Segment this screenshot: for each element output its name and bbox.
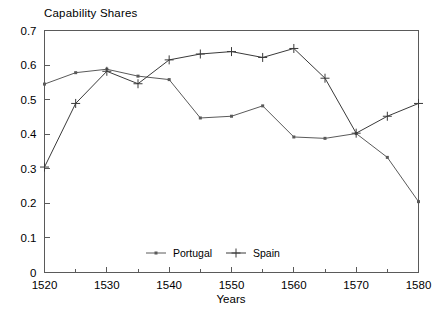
capability-shares-line-chart: 00.10.20.30.40.50.60.7 15201530154015501… — [0, 0, 440, 322]
x-tick-label: 1560 — [281, 279, 307, 291]
series-portugal — [43, 68, 420, 203]
x-axis-ticks — [45, 267, 419, 273]
legend-item-portugal[interactable]: Portugal — [146, 247, 212, 259]
data-point-marker — [74, 71, 77, 74]
data-point-marker — [417, 200, 420, 203]
chart-legend: PortugalSpain — [146, 247, 280, 259]
x-tick-label: 1570 — [343, 279, 369, 291]
data-point-marker — [155, 252, 158, 255]
legend-item-spain[interactable]: Spain — [226, 247, 280, 259]
y-tick-label: 0.6 — [21, 59, 37, 71]
data-series-layer — [40, 44, 423, 203]
x-tick-label: 1580 — [406, 279, 432, 291]
x-tick-label: 1540 — [156, 279, 182, 291]
data-point-marker — [137, 75, 140, 78]
data-point-marker — [43, 83, 46, 86]
y-axis-ticks — [45, 31, 50, 273]
x-axis-tick-labels: 1520153015401550156015701580 — [32, 279, 432, 291]
legend-label: Portugal — [173, 247, 212, 259]
y-tick-label: 0.1 — [21, 232, 37, 244]
data-point-marker — [292, 135, 295, 138]
x-tick-label: 1550 — [219, 279, 245, 291]
y-tick-label: 0.5 — [21, 94, 37, 106]
chart-container: Capability Shares 00.10.20.30.40.50.60.7… — [0, 0, 440, 322]
x-axis-title: Years — [217, 293, 246, 305]
series-spain — [40, 44, 423, 172]
plot-frame — [45, 31, 419, 273]
y-tick-label: 0.2 — [21, 197, 37, 209]
legend-label: Spain — [253, 247, 280, 259]
x-tick-label: 1530 — [94, 279, 120, 291]
data-point-marker — [386, 156, 389, 159]
data-point-marker — [199, 116, 202, 119]
data-point-marker — [261, 104, 264, 107]
data-point-marker — [168, 78, 171, 81]
x-tick-label: 1520 — [32, 279, 58, 291]
y-tick-label: 0.4 — [21, 128, 38, 140]
y-axis-tick-labels: 00.10.20.30.40.50.60.7 — [21, 25, 38, 279]
y-tick-label: 0 — [30, 267, 36, 279]
data-point-marker — [230, 115, 233, 118]
y-tick-label: 0.3 — [21, 163, 37, 175]
data-point-marker — [324, 137, 327, 140]
y-tick-label: 0.7 — [21, 25, 37, 37]
